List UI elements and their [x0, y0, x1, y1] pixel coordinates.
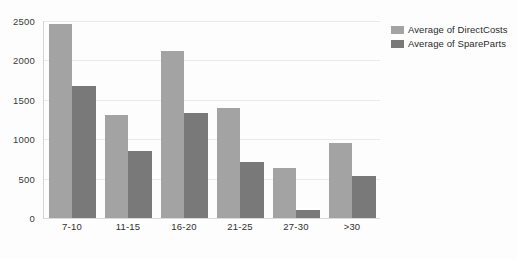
x-axis-tick-label: 16-20	[156, 221, 212, 232]
bar-group	[44, 21, 100, 218]
y-axis-tick-label: 0	[30, 213, 35, 224]
y-axis-tick-label: 500	[19, 173, 35, 184]
x-axis-tick-label: 7-10	[44, 221, 100, 232]
legend-item[interactable]: Average of DirectCosts	[391, 24, 508, 35]
bar[interactable]	[161, 51, 185, 218]
y-axis-tick-labels: 05001000150020002500	[0, 21, 40, 218]
legend-swatch-spareparts-icon	[391, 40, 404, 48]
y-axis-tick-label: 2500	[13, 16, 35, 27]
legend-label: Average of DirectCosts	[408, 24, 508, 35]
bar[interactable]	[273, 168, 297, 218]
axis-baseline	[44, 218, 380, 219]
bar-group	[156, 21, 212, 218]
legend-swatch-directcosts-icon	[391, 26, 404, 34]
bar-group	[100, 21, 156, 218]
y-axis-tick-label: 1500	[13, 94, 35, 105]
legend-label: Average of SpareParts	[408, 38, 506, 49]
bar[interactable]	[128, 151, 152, 218]
x-axis-tick-label: 27-30	[268, 221, 324, 232]
bar[interactable]	[240, 162, 264, 218]
y-axis-tick-label: 2000	[13, 55, 35, 66]
x-axis-tick-label: >30	[324, 221, 380, 232]
bar[interactable]	[105, 115, 129, 218]
bar[interactable]	[352, 176, 376, 218]
bar-group	[324, 21, 380, 218]
legend-item[interactable]: Average of SpareParts	[391, 38, 508, 49]
bar[interactable]	[217, 108, 241, 218]
bar-group	[268, 21, 324, 218]
chart-legend: Average of DirectCostsAverage of SparePa…	[391, 24, 508, 49]
bar[interactable]	[184, 113, 208, 218]
bar-chart: 05001000150020002500 7-1011-1516-2021-25…	[0, 0, 517, 259]
bar[interactable]	[296, 210, 320, 218]
bar[interactable]	[72, 86, 96, 218]
bar[interactable]	[329, 143, 353, 218]
y-axis-tick-label: 1000	[13, 134, 35, 145]
bar[interactable]	[49, 24, 73, 218]
bars-layer	[44, 21, 380, 218]
x-axis-tick-label: 11-15	[100, 221, 156, 232]
x-axis-tick-labels: 7-1011-1516-2021-2527-30>30	[44, 221, 380, 239]
x-axis-tick-label: 21-25	[212, 221, 268, 232]
bar-group	[212, 21, 268, 218]
